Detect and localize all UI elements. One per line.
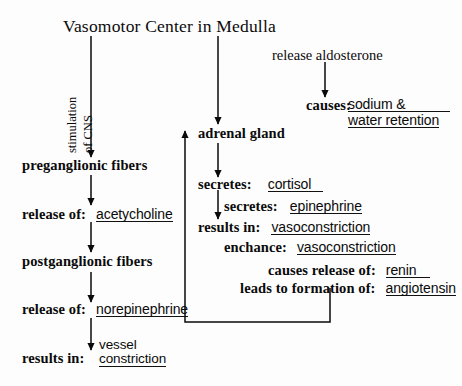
- label-leads-to-formation-of: leads to formation of:: [240, 280, 376, 296]
- row-secretes-cortisol: secretes: cortisol: [198, 176, 323, 192]
- value-epinephrine: epinephrine: [290, 199, 362, 214]
- value-angiotensin: angiotensin: [386, 281, 457, 296]
- diagram-canvas: Vasomotor Center in Medulla stimulation …: [0, 0, 462, 386]
- value-norepinephrine: norepinephrine: [96, 302, 188, 317]
- rotated-label-stimulation: stimulation: [65, 97, 80, 153]
- label-results-in-left: results in:: [22, 351, 84, 366]
- value-acetycholine: acetycholine: [96, 207, 173, 222]
- node-preganglionic-fibers: preganglionic fibers: [22, 158, 147, 173]
- label-causes: causes:: [306, 98, 351, 113]
- value-sodium: sodium &: [348, 97, 450, 112]
- connector-lines: [0, 0, 462, 386]
- label-results-in-middle: results in:: [198, 219, 260, 235]
- label-release-of: release of:: [22, 206, 86, 222]
- row-leads-to-formation-angiotensin: leads to formation of: angiotensin: [240, 280, 456, 296]
- row-release-norepinephrine: release of: norepinephrine: [22, 301, 188, 317]
- value-renin: renin: [386, 263, 431, 278]
- label-release-of-2: release of:: [22, 301, 86, 317]
- label-secretes-2: secretes:: [224, 198, 278, 214]
- value-cortisol: cortisol: [268, 177, 324, 192]
- row-causes-release-renin: causes release of: renin: [268, 262, 430, 278]
- row-secretes-epinephrine: secretes: epinephrine: [224, 198, 362, 214]
- label-secretes: secretes:: [198, 176, 252, 192]
- rotated-label-of-cns: of CNS: [81, 115, 96, 153]
- value-vessel: vessel: [99, 338, 137, 352]
- value-constriction: constriction: [99, 352, 166, 367]
- row-results-in-vasoconstriction: results in: vasoconstriction: [198, 219, 370, 235]
- value-vasoconstriction: vasoconstriction: [271, 220, 370, 235]
- row-release-acetycholine: release of: acetycholine: [22, 206, 173, 222]
- label-enchance: enchance:: [224, 239, 287, 255]
- value-vasoconstriction-2: vasoconstriction: [297, 240, 396, 255]
- page-title: Vasomotor Center in Medulla: [63, 18, 276, 36]
- value-water-retention: water retention: [348, 113, 439, 128]
- node-release-aldosterone: release aldosterone: [272, 48, 383, 63]
- node-adrenal-gland: adrenal gland: [198, 126, 285, 141]
- node-postganglionic-fibers: postganglionic fibers: [22, 254, 153, 269]
- label-causes-release-of: causes release of:: [268, 262, 376, 278]
- row-enchance-vasoconstriction: enchance: vasoconstriction: [224, 239, 396, 255]
